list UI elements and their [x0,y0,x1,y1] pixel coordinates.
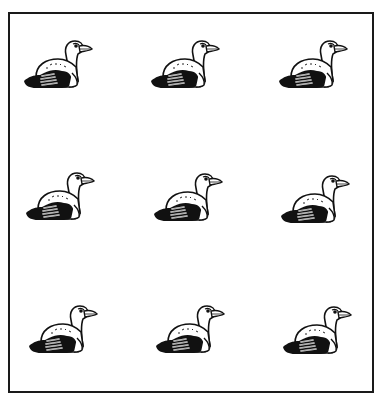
bird-icon [154,302,228,356]
bird-icon [24,169,98,223]
bird-icon [281,303,355,357]
bird-icon [27,302,101,356]
bird-icon [277,37,351,91]
bird-icon [22,37,96,91]
bird-icon [152,170,226,224]
bird-icon [279,172,353,226]
bird-icon [149,37,223,91]
